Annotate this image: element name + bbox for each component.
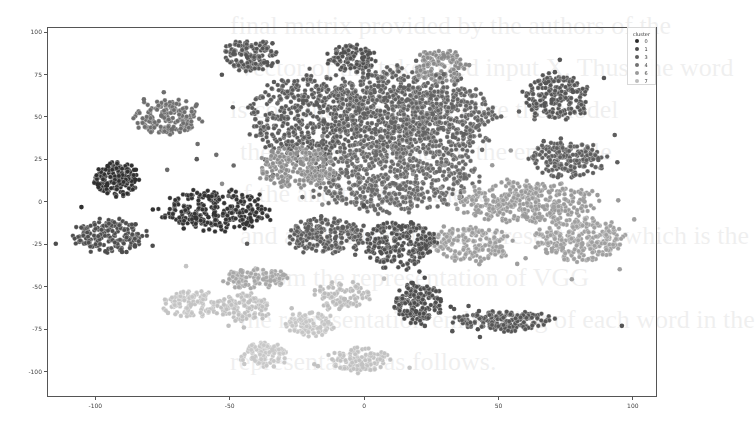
y-tick-label: 25 xyxy=(14,155,42,162)
y-tick-mark xyxy=(44,159,47,160)
y-tick-mark xyxy=(44,244,47,245)
x-tick-mark xyxy=(632,397,633,400)
legend-marker-icon xyxy=(635,71,639,75)
y-tick-mark xyxy=(44,116,47,117)
legend-label: 6 xyxy=(645,70,649,76)
y-tick-label: -50 xyxy=(14,283,42,290)
y-tick-label: -25 xyxy=(14,240,42,247)
y-tick-label: 50 xyxy=(14,113,42,120)
legend-label: 1 xyxy=(645,46,649,52)
legend-label: 7 xyxy=(645,78,649,84)
y-tick-label: 100 xyxy=(14,28,42,35)
y-tick-mark xyxy=(44,201,47,202)
legend-entry: 6 xyxy=(628,69,655,77)
x-tick-label: -100 xyxy=(80,402,110,409)
legend: cluster 013467 xyxy=(627,27,656,85)
y-tick-mark xyxy=(44,329,47,330)
y-tick-mark xyxy=(44,371,47,372)
y-tick-label: 0 xyxy=(14,198,42,205)
y-tick-label: 75 xyxy=(14,71,42,78)
legend-entry: 3 xyxy=(628,53,655,61)
legend-entry: 1 xyxy=(628,45,655,53)
legend-entry: 4 xyxy=(628,61,655,69)
y-tick-mark xyxy=(44,286,47,287)
legend-label: 3 xyxy=(645,54,649,60)
x-tick-label: 50 xyxy=(483,402,513,409)
y-tick-mark xyxy=(44,74,47,75)
legend-marker-icon xyxy=(635,55,639,59)
legend-marker-icon xyxy=(635,79,639,83)
x-tick-mark xyxy=(364,397,365,400)
legend-entry: 7 xyxy=(628,77,655,85)
x-tick-mark xyxy=(498,397,499,400)
legend-label: 4 xyxy=(645,62,649,68)
y-tick-mark xyxy=(44,32,47,33)
x-tick-mark xyxy=(95,397,96,400)
x-tick-label: 0 xyxy=(349,402,379,409)
x-tick-label: -50 xyxy=(215,402,245,409)
y-tick-label: -100 xyxy=(14,368,42,375)
y-tick-label: -75 xyxy=(14,325,42,332)
legend-entries: 013467 xyxy=(628,37,655,85)
x-tick-mark xyxy=(229,397,230,400)
legend-label: 0 xyxy=(645,38,649,44)
x-tick-label: 100 xyxy=(618,402,648,409)
legend-marker-icon xyxy=(635,47,639,51)
legend-marker-icon xyxy=(635,39,639,43)
legend-entry: 0 xyxy=(628,37,655,45)
legend-marker-icon xyxy=(635,63,639,67)
